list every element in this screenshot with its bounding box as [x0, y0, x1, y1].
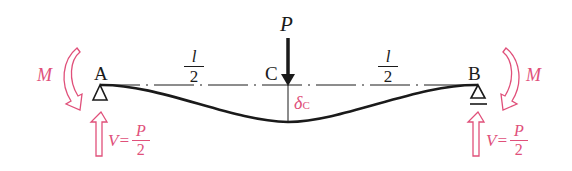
reaction-left-label: V= P 2: [108, 123, 150, 158]
span-right-fraction: l 2: [378, 48, 398, 85]
reaction-right-denominator: 2: [515, 142, 523, 158]
point-a-label: A: [94, 64, 108, 83]
moment-right-label: M: [526, 66, 541, 84]
reaction-left-icon: [91, 112, 107, 156]
moment-left-label: M: [37, 66, 52, 84]
load-label: P: [280, 14, 293, 35]
point-b-label: B: [468, 64, 481, 83]
reaction-left-prefix: V=: [108, 132, 130, 149]
reaction-right-icon: [468, 112, 484, 156]
span-left-denominator: 2: [190, 68, 199, 85]
span-right-denominator: 2: [384, 68, 393, 85]
reaction-right-label: V= P 2: [486, 123, 528, 158]
span-right-numerator: l: [386, 48, 391, 65]
support-b-icon: [470, 85, 487, 104]
load-arrow-icon: [281, 38, 295, 86]
moment-left-icon: [64, 48, 82, 110]
reaction-right-fraction: P 2: [510, 123, 528, 158]
span-left-fraction: l 2: [184, 48, 204, 85]
reaction-right-numerator: P: [514, 123, 524, 139]
deflection-subscript: C: [302, 99, 309, 111]
support-a-icon: [93, 85, 107, 100]
reaction-left-fraction: P 2: [132, 123, 150, 158]
reaction-right-prefix: V=: [486, 132, 508, 149]
deflection-label: δC: [294, 94, 310, 112]
point-c-label: C: [265, 64, 278, 83]
reaction-left-denominator: 2: [137, 142, 145, 158]
span-left-numerator: l: [192, 48, 197, 65]
deflected-beam: [100, 85, 478, 122]
beam-diagram: A B C P l 2 l 2 δC M M V= P 2 V= P 2: [0, 0, 572, 171]
reaction-left-numerator: P: [136, 123, 146, 139]
